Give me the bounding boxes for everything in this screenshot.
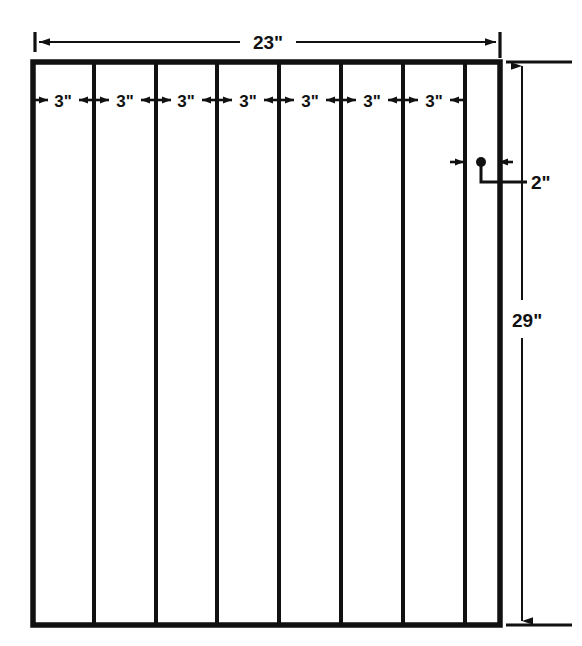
overall-height-dimension: 29" bbox=[506, 62, 572, 625]
remainder-width-label: 2" bbox=[531, 172, 551, 193]
segment-6-label: 3" bbox=[363, 92, 381, 111]
overall-height-label: 29" bbox=[512, 310, 542, 331]
segment-1-label: 3" bbox=[54, 92, 72, 111]
overall-width-dimension: 23" bbox=[35, 32, 500, 58]
technical-drawing: 23" 3" bbox=[0, 0, 582, 646]
panel-rectangle bbox=[33, 62, 500, 625]
segment-3-label: 3" bbox=[177, 92, 195, 111]
remainder-leader-dot bbox=[476, 157, 486, 167]
segment-7-label: 3" bbox=[425, 92, 443, 111]
panel-outline bbox=[33, 62, 500, 625]
overall-width-label: 23" bbox=[253, 32, 283, 53]
drawing-canvas: 23" 3" bbox=[0, 0, 582, 646]
segment-2-label: 3" bbox=[116, 92, 134, 111]
segment-4-label: 3" bbox=[239, 92, 257, 111]
segment-5-label: 3" bbox=[301, 92, 319, 111]
